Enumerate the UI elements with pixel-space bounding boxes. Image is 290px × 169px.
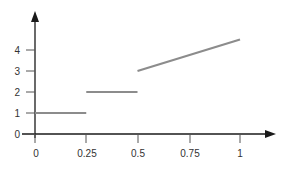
series-layer	[35, 40, 240, 114]
y-tick-label: 4	[14, 45, 20, 56]
y-ticks: 0 1 2 3 4	[14, 45, 35, 140]
x-tick-label: 0.5	[131, 148, 145, 159]
x-tick-label: 0	[33, 148, 39, 159]
y-tick-label: 1	[14, 108, 20, 119]
x-tick-label: 0.75	[180, 148, 200, 159]
piecewise-line-chart: 0 1 2 3 4 0 0.25 0.5 0.75 1	[0, 0, 290, 169]
y-tick-label: 3	[14, 66, 20, 77]
x-ticks: 0 0.25 0.5 0.75 1	[33, 134, 243, 159]
y-tick-label: 2	[14, 87, 20, 98]
axes	[22, 11, 276, 138]
line-segment-3	[138, 40, 241, 72]
y-axis-arrow-icon	[31, 11, 39, 22]
x-tick-label: 0.25	[77, 148, 97, 159]
x-axis-arrow-icon	[265, 130, 276, 138]
x-tick-label: 1	[237, 148, 243, 159]
y-tick-label: 0	[14, 129, 20, 140]
